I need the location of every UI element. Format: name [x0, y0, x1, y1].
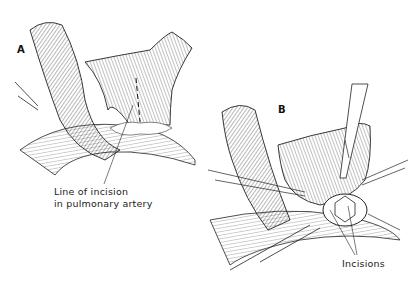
panel-b-letter: B: [278, 104, 286, 115]
callout-line-1: Line of incision: [54, 186, 152, 198]
callout-line-2: in pulmonary artery: [54, 198, 152, 210]
surgical-illustration: [0, 0, 420, 286]
panel-b-drawing: [208, 84, 408, 270]
panel-a-drawing: [15, 22, 195, 184]
callout-line-of-incision: Line of incision in pulmonary artery: [54, 186, 152, 210]
panel-a-letter: A: [17, 44, 25, 55]
callout-incisions: Incisions: [342, 258, 385, 270]
